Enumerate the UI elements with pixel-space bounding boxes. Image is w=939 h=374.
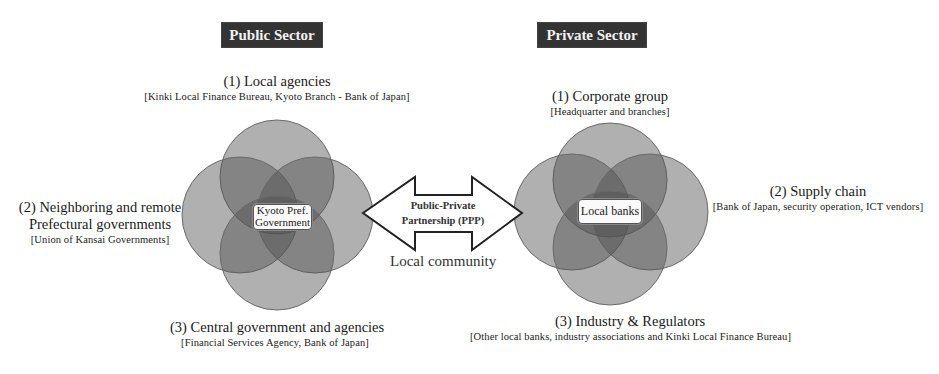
- label-sub: [Kinki Local Finance Bureau, Kyoto Branc…: [132, 90, 422, 103]
- kyoto-pref-government-box: Kyoto Pref. Government: [253, 204, 312, 230]
- label-sub: [Headquarter and branches]: [540, 105, 680, 118]
- private-label-supply-chain: (2) Supply chain [Bank of Japan, securit…: [708, 183, 928, 213]
- label-main: (2) Supply chain: [708, 183, 928, 200]
- ppp-label: Public-Private Partnership (PPP): [400, 198, 486, 228]
- center-line-1: Kyoto Pref.: [254, 205, 311, 217]
- local-banks-box: Local banks: [578, 199, 642, 224]
- label-main: (1) Local agencies: [132, 73, 422, 90]
- public-label-neighboring-governments: (2) Neighboring and remote Prefectural g…: [15, 199, 185, 246]
- private-label-industry-regulators: (3) Industry & Regulators [Other local b…: [470, 313, 790, 343]
- local-banks-label: Local banks: [581, 204, 639, 218]
- label-main-2: Prefectural governments: [15, 216, 185, 233]
- label-sub: [Bank of Japan, security operation, ICT …: [708, 200, 928, 213]
- label-sub: [Union of Kansai Governments]: [15, 233, 185, 246]
- label-sub: [Financial Services Agency, Bank of Japa…: [170, 336, 380, 349]
- label-sub: [Other local banks, industry association…: [470, 330, 790, 343]
- label-main: (3) Central government and agencies: [170, 319, 380, 336]
- public-label-local-agencies: (1) Local agencies [Kinki Local Finance …: [132, 73, 422, 103]
- label-main: (3) Industry & Regulators: [470, 313, 790, 330]
- center-line-2: Government: [254, 217, 311, 229]
- ppp-line-2: Partnership (PPP): [400, 213, 486, 228]
- public-label-central-government: (3) Central government and agencies [Fin…: [170, 319, 380, 349]
- private-label-corporate-group: (1) Corporate group [Headquarter and bra…: [540, 88, 680, 118]
- label-main-1: (2) Neighboring and remote: [15, 199, 185, 216]
- label-main: (1) Corporate group: [540, 88, 680, 105]
- local-community-caption: Local community: [390, 253, 496, 270]
- ppp-line-1: Public-Private: [400, 198, 486, 213]
